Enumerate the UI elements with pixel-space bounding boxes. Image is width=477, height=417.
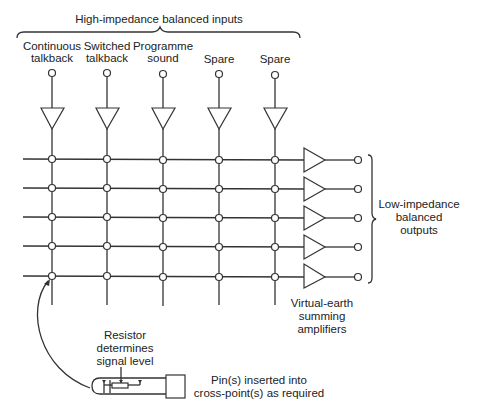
amplifiers-label-line1: Virtual-earth (291, 297, 353, 309)
summing-amp-2 (304, 177, 325, 201)
input-terminal-3 (160, 71, 167, 78)
cross-point[interactable] (160, 157, 167, 164)
input-buffer-3 (152, 108, 175, 129)
cross-point[interactable] (272, 274, 279, 281)
summing-amp-1 (304, 148, 325, 172)
outputs-brace (368, 155, 376, 283)
output-terminal-5 (355, 274, 362, 281)
cross-point[interactable] (272, 157, 279, 164)
input-label-2-line2: talkback (86, 52, 128, 64)
amplifiers-label-line2: summing (299, 310, 346, 322)
output-terminal-3 (355, 215, 362, 222)
inputs-title: High-impedance balanced inputs (75, 13, 243, 25)
cross-point[interactable] (272, 244, 279, 251)
summing-amp-5 (304, 264, 325, 288)
outputs-label-line1: Low-impedance (378, 198, 459, 210)
cross-point[interactable] (104, 243, 111, 250)
input-label-4-line2: Spare (204, 53, 235, 65)
cross-point[interactable] (216, 274, 223, 281)
input-label-2-line1: Switched (84, 40, 131, 52)
pin-label-line2: cross-point(s) as required (194, 387, 324, 399)
cross-point[interactable] (272, 215, 279, 222)
cross-point[interactable] (49, 214, 56, 221)
input-terminal-4 (216, 71, 223, 78)
input-buffer-1 (41, 108, 64, 129)
pointer-arrow (37, 281, 90, 388)
cross-point[interactable] (49, 185, 56, 192)
summing-amp-3 (304, 206, 325, 230)
cross-point[interactable] (104, 273, 111, 280)
input-terminal-5 (272, 72, 279, 79)
cross-point[interactable] (160, 274, 167, 281)
input-label-3-line2: sound (147, 52, 178, 64)
cross-point[interactable] (104, 185, 111, 192)
crosspoint-matrix-diagram: High-impedance balanced inputs Continuou… (0, 0, 477, 417)
input-label-1-line1: Continuous (23, 40, 81, 52)
input-label-3-line1: Programme (133, 40, 193, 52)
output-terminal-4 (355, 244, 362, 251)
input-label-1-line2: talkback (31, 52, 73, 64)
amplifiers-label-line3: amplifiers (297, 323, 346, 335)
cross-point[interactable] (104, 214, 111, 221)
resistor-label-line2: determines (97, 342, 154, 354)
input-buffer-5 (264, 108, 287, 129)
cross-point[interactable] (104, 156, 111, 163)
input-buffer-2 (96, 108, 119, 129)
cross-point[interactable] (160, 186, 167, 193)
resistor-label-line1: Resistor (104, 329, 146, 341)
cross-point[interactable] (49, 243, 56, 250)
crosspoint-pin-icon (92, 367, 185, 398)
input-terminal-2 (104, 70, 111, 77)
input-terminal-1 (49, 70, 56, 77)
outputs-label-line2: balanced (396, 211, 443, 223)
resistor-label-line3: signal level (97, 355, 154, 367)
outputs-label-line3: outputs (400, 224, 438, 236)
cross-point[interactable] (49, 156, 56, 163)
cross-point[interactable] (49, 273, 56, 280)
output-terminal-2 (355, 186, 362, 193)
cross-point[interactable] (160, 244, 167, 251)
output-terminal-1 (355, 157, 362, 164)
cross-point[interactable] (216, 215, 223, 222)
summing-amp-4 (304, 235, 325, 259)
pin-label-line1: Pin(s) inserted into (211, 374, 307, 386)
input-labels: Continuous talkback Switched talkback Pr… (23, 40, 290, 65)
cross-point[interactable] (216, 157, 223, 164)
cross-point[interactable] (216, 244, 223, 251)
cross-point[interactable] (272, 186, 279, 193)
cross-point[interactable] (160, 215, 167, 222)
input-label-5-line2: Spare (260, 53, 291, 65)
summing-amplifiers (304, 148, 362, 288)
input-buffer-4 (208, 108, 231, 129)
cross-point[interactable] (216, 186, 223, 193)
inputs-brace (17, 27, 300, 38)
